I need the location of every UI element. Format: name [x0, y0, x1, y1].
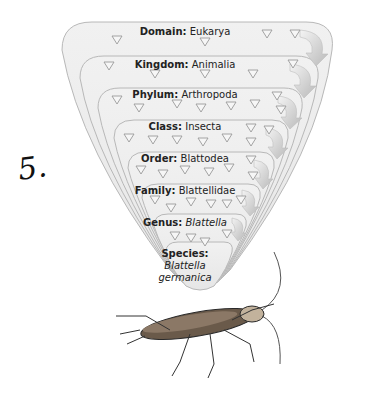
level-species: Species: Blattella germanica — [135, 248, 235, 284]
level-family: Family: Blattellidae — [0, 185, 370, 197]
taxonomy-funnel-diagram: Domain: Eukarya Kingdom: Animalia Phylum… — [0, 0, 370, 400]
level-phylum: Phylum: Arthropoda — [0, 89, 370, 101]
level-order: Order: Blattodea — [0, 153, 370, 165]
level-kingdom: Kingdom: Animalia — [0, 59, 370, 71]
level-genus: Genus: Blattella — [0, 217, 370, 229]
level-class: Class: Insecta — [0, 121, 370, 133]
handwritten-number: 5. — [16, 148, 49, 187]
level-domain: Domain: Eukarya — [0, 26, 370, 38]
